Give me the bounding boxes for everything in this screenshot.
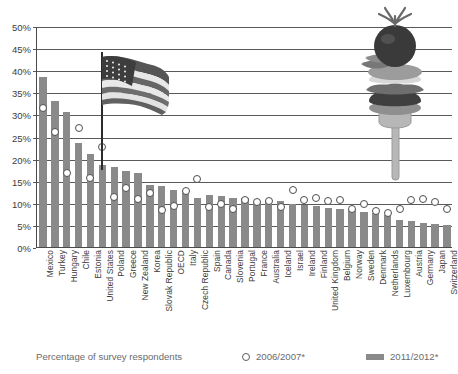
bar [289,204,296,247]
x-axis-tick-label: Estonia [93,250,103,279]
bar-column [218,26,225,247]
circle-marker [265,197,273,205]
x-axis-tick-label: France [259,250,269,277]
bar [253,203,260,247]
bar-column [111,26,118,247]
x-axis-tick-label: Netherlands [390,250,400,296]
bar-column [265,26,272,247]
bar [408,221,415,247]
bar [75,143,82,247]
bar-column [360,26,367,247]
x-axis-tick-label: Sweden [366,250,376,281]
legend-item-2011-2012: 2011/2012* [366,351,438,362]
bar-column [229,26,236,247]
bar [99,165,106,247]
bar [301,205,308,247]
x-axis-tick-label: Germany [425,250,435,285]
y-axis-tick-label: 50% [12,22,31,33]
bar-column [182,26,189,247]
bar [87,154,94,247]
bar-column [241,26,248,247]
bar [348,210,355,247]
chart-root: 0%5%10%15%20%25%30%35%40%45%50% [0,0,458,374]
x-axis-tick-label: Greece [128,250,138,278]
bar-column [51,26,58,247]
bar-column [146,26,153,247]
bar-column [39,26,46,247]
x-axis-tick-label: Portugal [247,250,257,282]
x-axis-tick-label: Australia [271,250,281,283]
x-axis-tick-label: Ireland [307,250,317,276]
x-axis-tick-label: Poland [116,250,126,277]
circle-marker [51,128,59,136]
circle-marker [98,143,106,151]
x-axis-tick-label: Turkey [57,250,67,276]
bar-column [301,26,308,247]
circle-marker [372,207,380,215]
circle-marker [312,194,320,202]
bar [396,220,403,247]
bar-column [336,26,343,247]
bar [134,173,141,247]
bar [170,190,177,247]
bar-column [277,26,284,247]
bar-column [396,26,403,247]
bar [325,208,332,247]
bar [51,101,58,247]
bar [39,77,46,247]
y-axis-labels: 0%5%10%15%20%25%30%35%40%45%50% [0,27,33,248]
bar-column [313,26,320,247]
x-axis-tick-label: Luxembourg [402,250,412,298]
circle-marker [407,196,415,204]
bar [384,215,391,247]
bar [182,191,189,247]
x-axis-tick-label: Finland [319,250,329,278]
bar [265,201,272,247]
x-axis-tick-label: Denmark [378,250,388,285]
circle-marker [241,196,249,204]
y-axis-tick-label: 20% [12,154,31,165]
x-axis-tick-label: New Zealand [140,250,150,300]
bar-column [420,26,427,247]
circle-marker [158,206,166,214]
circle-marker [75,124,83,132]
y-axis-tick-label: 15% [12,176,31,187]
circle-marker [360,200,368,208]
circle-marker [170,202,178,210]
x-axis-tick-label: United Kingdom [330,250,340,311]
bar [122,171,129,247]
bar-column [289,26,296,247]
y-axis-tick-label: 35% [12,88,31,99]
legend-label: 2011/2012* [390,351,438,362]
x-axis-tick-label: United States [105,250,115,302]
circle-marker [336,196,344,204]
bar [372,213,379,247]
chart-legend: Percentage of survey respondents 2006/20… [36,348,454,368]
circle-marker [396,205,404,213]
circle-marker-icon [242,353,250,361]
bar-column [75,26,82,247]
bar-column [408,26,415,247]
y-axis-tick-label: 5% [17,220,31,231]
bar [336,209,343,247]
x-axis-tick-label: Slovenia [235,250,245,283]
bar-column [99,26,106,247]
bar [111,167,118,247]
circle-marker [122,184,130,192]
circle-marker [146,189,154,197]
circle-marker [443,205,451,213]
x-axis-tick-label: Norway [354,250,364,279]
bar-column [87,26,94,247]
circle-marker [289,186,297,194]
bar [360,212,367,247]
y-axis-tick-label: 45% [12,44,31,55]
circle-marker [217,200,225,208]
bar-column [122,26,129,247]
y-axis-tick-label: 25% [12,132,31,143]
legend-item-2006-2007: 2006/2007* [242,351,305,362]
circle-marker [63,169,71,177]
bar-column [431,26,438,247]
legend-caption: Percentage of survey respondents [36,351,182,362]
circle-marker [110,193,118,201]
x-axis-tick-label: Israel [295,250,305,271]
